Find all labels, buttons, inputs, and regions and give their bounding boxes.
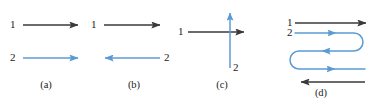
panel-c-label-2: 2 [233,62,239,73]
panel-d-label-2: 2 [287,27,293,38]
panel-c-caption: (c) [176,80,268,91]
panel-a: 1 2 (a) [0,0,92,106]
panel-d-caption: (d) [268,88,374,99]
panel-b: 1 2 (b) [88,0,180,106]
panel-d: 1 2 (d) [268,0,374,106]
panel-b-label-2: 2 [164,52,170,63]
panel-a-label-2: 2 [10,52,16,63]
panel-b-label-1: 1 [91,19,97,30]
panel-c-label-1: 1 [178,26,184,37]
panel-a-label-1: 1 [10,19,16,30]
panel-a-caption: (a) [0,80,92,91]
panel-b-caption: (b) [88,80,180,91]
figure-four-panel-arrow-diagram: 1 2 (a) 1 2 (b) [0,0,374,106]
panel-c: 1 2 (c) [176,0,268,106]
